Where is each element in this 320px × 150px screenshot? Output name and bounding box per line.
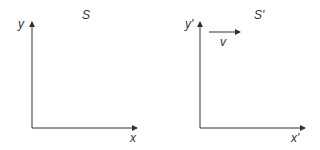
y-prime-axis-label: y': [184, 17, 194, 31]
frame-s-label: S: [82, 8, 90, 22]
velocity-label: v: [220, 35, 227, 49]
frame-s-prime: S' y' v x': [184, 8, 305, 145]
frame-s: S y x: [17, 8, 137, 145]
y-axis-label: y: [17, 17, 25, 31]
x-prime-axis-label: x': [290, 131, 300, 145]
frame-s-prime-label: S': [254, 8, 265, 22]
reference-frames-diagram: S y x S' y' v x': [0, 0, 320, 150]
x-axis-label: x: [129, 131, 137, 145]
